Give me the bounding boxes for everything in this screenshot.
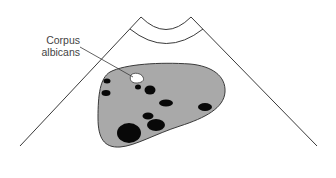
transducer-arc-outer xyxy=(141,17,191,30)
follicle xyxy=(147,119,165,131)
ultrasound-diagram xyxy=(0,0,336,178)
diagram-canvas: Corpus albicans xyxy=(0,0,336,178)
follicle xyxy=(159,100,173,107)
follicle xyxy=(102,90,111,96)
follicle xyxy=(143,113,154,120)
follicle xyxy=(104,79,111,84)
label-line-2: albicans xyxy=(30,46,80,58)
label-line-1: Corpus xyxy=(30,34,80,46)
corpus-albicans xyxy=(130,73,143,83)
follicle xyxy=(135,85,141,90)
follicle xyxy=(117,123,141,143)
follicle xyxy=(145,86,156,95)
follicle xyxy=(198,103,212,111)
label-leader-line xyxy=(80,47,133,77)
corpus-albicans-label: Corpus albicans xyxy=(30,34,80,58)
transducer-arc-inner xyxy=(130,29,203,44)
